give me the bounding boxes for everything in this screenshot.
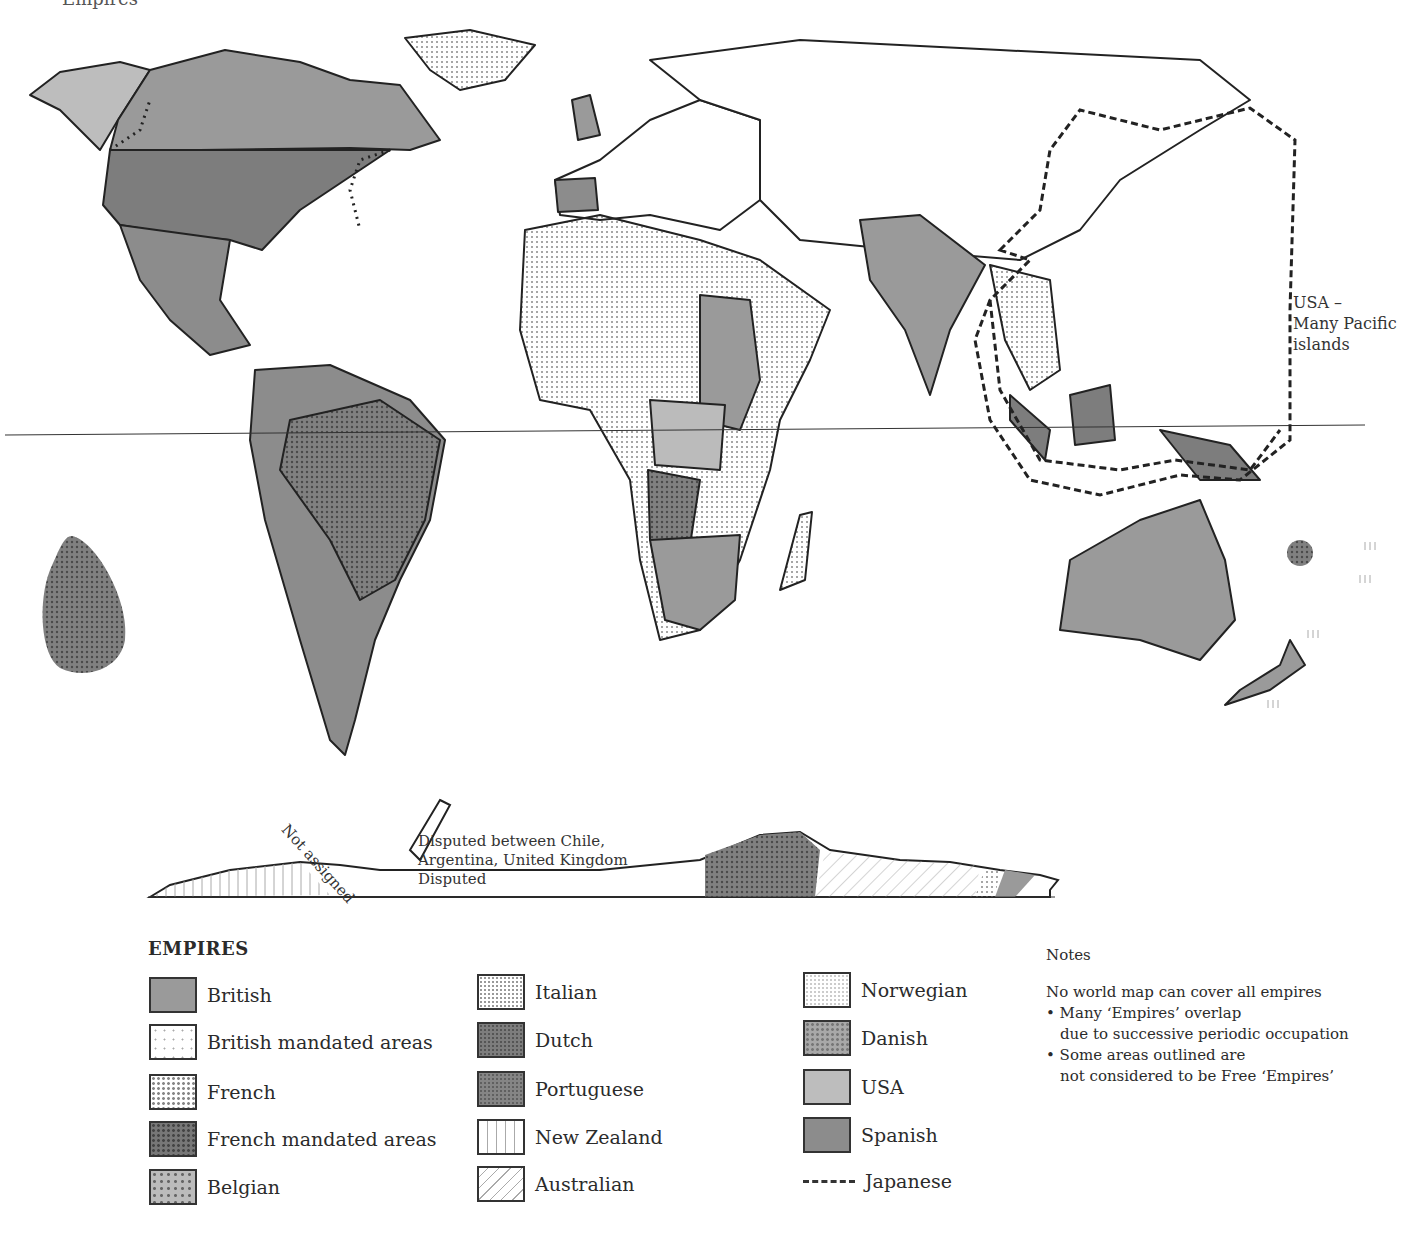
legend-item-belgian: Belgian [149, 1169, 280, 1205]
legend-label: Norwegian [861, 979, 967, 1001]
disputed-line-3: Disputed [418, 870, 628, 889]
legend-item-spanish: Spanish [803, 1117, 938, 1153]
disputed-line-2: Argentina, United Kingdom [418, 851, 628, 870]
uk [572, 95, 600, 140]
legend-label: Belgian [207, 1176, 280, 1198]
pacific-line-1: USA – [1293, 292, 1397, 313]
inset-island [43, 536, 126, 673]
world-map [0, 0, 1427, 920]
legend-item-danish: Danish [803, 1020, 928, 1056]
legend-label: Spanish [861, 1124, 938, 1146]
legend-label: New Zealand [535, 1126, 663, 1148]
indochina [990, 265, 1060, 390]
disputed-annotation: Disputed between Chile, Argentina, Unite… [418, 832, 628, 889]
note-bullet-2: • Some areas outlined are [1046, 1045, 1349, 1066]
note-bullet-2-cont: not considered to be Free ‘Empires’ [1046, 1066, 1349, 1087]
australian-swatch [477, 1166, 525, 1202]
greenland [405, 30, 535, 90]
french-swatch [149, 1074, 197, 1110]
legend-label: Italian [535, 981, 597, 1003]
usa-swatch [803, 1069, 851, 1105]
pacific-line-3: islands [1293, 334, 1397, 355]
italian-swatch [477, 974, 525, 1010]
legend-label: French mandated areas [207, 1128, 437, 1150]
mexico [120, 225, 250, 355]
legend-label: Portuguese [535, 1078, 644, 1100]
legend-label: French [207, 1081, 276, 1103]
legend-item-dutch: Dutch [477, 1022, 593, 1058]
legend-item-new-zealand: New Zealand [477, 1119, 663, 1155]
dutch-swatch [477, 1022, 525, 1058]
legend-label: British mandated areas [207, 1031, 433, 1053]
legend-label: British [207, 984, 272, 1006]
canada [110, 50, 440, 150]
legend-item-french: French [149, 1074, 276, 1110]
norwegian-swatch [803, 972, 851, 1008]
legend-item-usa: USA [803, 1069, 904, 1105]
legend-item-british-mandated: British mandated areas [149, 1024, 433, 1060]
indonesia-2 [1070, 385, 1115, 445]
madagascar [780, 512, 812, 590]
legend-label: USA [861, 1076, 904, 1098]
legend-item-norwegian: Norwegian [803, 972, 967, 1008]
pacific-line-2: Many Pacific [1293, 313, 1397, 334]
legend-item-portuguese: Portuguese [477, 1071, 644, 1107]
british-mandated-swatch [149, 1024, 197, 1060]
dashed-line-icon [803, 1180, 855, 1183]
french-mandated-swatch [149, 1121, 197, 1157]
spanish-swatch [803, 1117, 851, 1153]
notes-panel: Notes No world map can cover all empires… [1046, 945, 1349, 1087]
new-zealand-swatch [477, 1119, 525, 1155]
africa-portuguese [648, 470, 700, 545]
legend-item-australian: Australian [477, 1166, 634, 1202]
notes-heading: Notes [1046, 945, 1349, 966]
new-guinea [1160, 430, 1260, 480]
legend-label: Dutch [535, 1029, 593, 1051]
belgian-swatch [149, 1169, 197, 1205]
note-bullet-1-cont: due to successive periodic occupation [1046, 1024, 1349, 1045]
notes-intro: No world map can cover all empires [1046, 982, 1349, 1003]
legend-title: EMPIRES [148, 938, 249, 959]
legend-item-japanese: Japanese [803, 1170, 952, 1192]
spain [555, 178, 598, 212]
fiji-island [1287, 540, 1313, 566]
danish-swatch [803, 1020, 851, 1056]
legend-item-french-mandated: French mandated areas [149, 1121, 437, 1157]
british-swatch [149, 977, 197, 1013]
legend-label: Japanese [865, 1170, 952, 1192]
pacific-annotation: USA – Many Pacific islands [1293, 292, 1397, 355]
new-zealand [1225, 640, 1305, 705]
africa-south [650, 535, 740, 630]
africa-belgian [650, 400, 725, 470]
disputed-line-1: Disputed between Chile, [418, 832, 628, 851]
legend-item-british: British [149, 977, 272, 1013]
australia [1060, 500, 1235, 660]
note-bullet-1: • Many ‘Empires’ overlap [1046, 1003, 1349, 1024]
legend-item-italian: Italian [477, 974, 597, 1010]
portuguese-swatch [477, 1071, 525, 1107]
legend-label: Australian [535, 1173, 634, 1195]
legend-label: Danish [861, 1027, 928, 1049]
